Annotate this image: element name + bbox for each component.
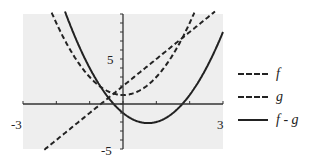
y-neg-label: -5 <box>101 143 112 158</box>
x-max-label: 3 <box>217 117 224 132</box>
dashed-line-icon <box>238 73 268 75</box>
legend-label: f <box>276 66 280 82</box>
dashed-line-icon <box>238 96 268 98</box>
legend-item-f: f <box>238 62 322 85</box>
legend-label: g <box>276 89 283 105</box>
legend-item-g: g <box>238 85 322 108</box>
y-pos-label: 5 <box>107 52 114 67</box>
legend: f g f - g <box>238 62 322 131</box>
x-min-label: -3 <box>11 117 22 132</box>
legend-item-f-minus-g: f - g <box>238 108 322 131</box>
plot-svg: -3 3 5 -5 <box>0 0 230 160</box>
legend-label: f - g <box>276 112 299 128</box>
solid-line-icon <box>238 119 268 121</box>
